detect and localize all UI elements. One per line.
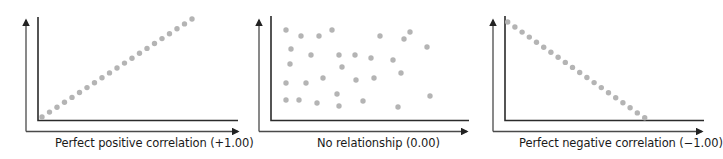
data-point — [303, 80, 308, 85]
panel-negative-correlation — [493, 16, 704, 132]
data-point — [395, 104, 400, 109]
data-point — [283, 97, 288, 102]
data-point — [69, 95, 74, 100]
data-point — [283, 27, 288, 32]
data-point — [152, 41, 157, 46]
data-point — [320, 75, 325, 80]
data-point — [298, 33, 303, 38]
data-point — [99, 75, 104, 80]
data-point — [613, 95, 618, 100]
panel-positive-correlation — [26, 16, 238, 131]
data-point — [174, 26, 179, 31]
data-point — [353, 77, 358, 82]
plot-axes — [271, 16, 469, 121]
data-point — [512, 24, 517, 29]
data-point — [54, 105, 59, 110]
data-point — [77, 90, 82, 95]
data-point — [505, 19, 510, 24]
data-point — [316, 33, 321, 38]
data-point — [84, 85, 89, 90]
negative-correlation-label: Perfect negative correlation (−1.00) — [519, 134, 723, 152]
data-point — [129, 56, 134, 61]
data-point — [548, 50, 553, 55]
data-point — [635, 110, 640, 115]
no-relationship-label: No relationship (0.00) — [317, 134, 440, 152]
data-point — [555, 55, 560, 60]
data-point — [308, 52, 313, 57]
data-point — [627, 105, 632, 110]
data-point — [368, 55, 373, 60]
data-point — [519, 29, 524, 34]
data-point — [584, 75, 589, 80]
data-point — [92, 80, 97, 85]
data-point — [296, 97, 301, 102]
data-point — [288, 46, 293, 51]
data-point — [339, 64, 344, 69]
plot-axes — [505, 16, 704, 121]
data-point — [534, 40, 539, 45]
data-point — [39, 114, 44, 119]
data-point — [390, 57, 395, 62]
data-point — [47, 109, 52, 114]
data-point — [360, 98, 365, 103]
data-point — [189, 16, 194, 21]
data-point — [642, 115, 647, 120]
data-point — [144, 46, 149, 51]
data-point — [107, 70, 112, 75]
data-point — [336, 52, 341, 57]
data-point — [541, 45, 546, 50]
positive-correlation-label: Perfect positive correlation (+1.00) — [55, 134, 254, 152]
data-point — [62, 100, 67, 105]
data-point — [182, 21, 187, 26]
data-point — [159, 36, 164, 41]
data-point — [314, 100, 319, 105]
data-point — [599, 85, 604, 90]
data-point — [114, 65, 119, 70]
data-point — [527, 34, 532, 39]
data-point — [377, 33, 382, 38]
data-point — [401, 36, 406, 41]
data-point — [334, 91, 339, 96]
data-point — [283, 80, 288, 85]
data-point — [329, 27, 334, 32]
data-point — [591, 80, 596, 85]
data-point — [577, 70, 582, 75]
data-point — [407, 29, 412, 34]
plot-axes — [38, 17, 238, 121]
data-point — [570, 65, 575, 70]
data-point — [336, 103, 341, 108]
data-point — [563, 60, 568, 65]
data-point — [352, 52, 357, 57]
data-point — [427, 93, 432, 98]
data-point — [167, 31, 172, 36]
data-point — [287, 61, 292, 66]
data-point — [398, 70, 403, 75]
data-point — [424, 44, 429, 49]
data-point — [620, 100, 625, 105]
data-point — [371, 75, 376, 80]
panel-no-relationship — [259, 16, 469, 132]
data-point — [122, 60, 127, 65]
data-point — [137, 51, 142, 56]
data-point — [606, 90, 611, 95]
